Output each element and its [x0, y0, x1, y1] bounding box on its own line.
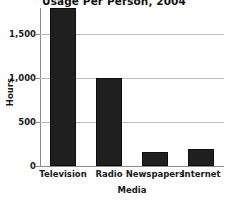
chart-title: Usage Per Person, 2004 [0, 0, 228, 7]
bar [50, 8, 76, 166]
x-axis-line [40, 166, 224, 167]
bar-chart: Usage Per Person, 2004 Hours Media 05001… [0, 0, 228, 202]
y-tick-mark [36, 34, 40, 35]
y-tick-mark [36, 122, 40, 123]
x-tick-label: Newspapers [126, 169, 185, 179]
y-tick-mark [36, 166, 40, 167]
plot-area [40, 8, 224, 166]
x-tick-label: Radio [95, 169, 122, 179]
x-tick-label: Internet [181, 169, 220, 179]
y-tick-label: 500 [18, 117, 36, 127]
bar [142, 152, 168, 166]
x-tick-label: Television [39, 169, 86, 179]
bar [96, 78, 122, 166]
y-tick-label: 1,500 [9, 29, 36, 39]
y-tick-label: 0 [30, 161, 36, 171]
x-axis-title: Media [40, 185, 224, 195]
bar [188, 149, 214, 166]
y-tick-mark [36, 78, 40, 79]
y-tick-label: 1,000 [9, 73, 36, 83]
